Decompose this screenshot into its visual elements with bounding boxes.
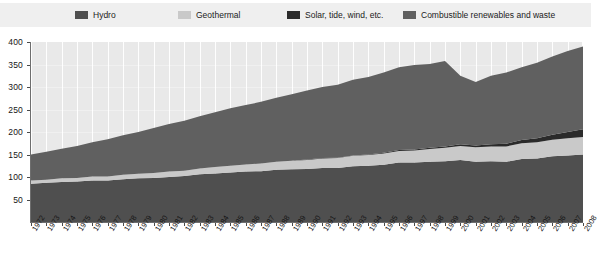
legend-label-0: Hydro xyxy=(93,11,116,20)
legend-item-3[interactable]: Combustible renewables and waste xyxy=(403,9,555,21)
legend-label-2: Solar, tide, wind, etc. xyxy=(305,11,383,20)
legend-label-1: Geothermal xyxy=(196,11,240,20)
legend-label-3: Combustible renewables and waste xyxy=(421,11,555,20)
legend-swatch-geothermal xyxy=(178,11,191,19)
y-tick-label-50: 50 xyxy=(13,195,23,205)
legend-item-0[interactable]: Hydro xyxy=(75,9,116,21)
y-tick-label-250: 250 xyxy=(8,105,23,115)
x-axis: 1972197319741975197619771978197919801981… xyxy=(31,223,583,260)
y-tick-label-150: 150 xyxy=(8,150,23,160)
legend-item-1[interactable]: Geothermal xyxy=(178,9,240,21)
y-tick-label-400: 400 xyxy=(8,37,23,47)
chart-legend: HydroGeothermalSolar, tide, wind, etc.Co… xyxy=(0,3,591,27)
legend-swatch-solar xyxy=(287,11,300,19)
legend-item-2[interactable]: Solar, tide, wind, etc. xyxy=(287,9,383,21)
y-tick-label-200: 200 xyxy=(8,127,23,137)
stacked-area-series xyxy=(31,42,583,222)
y-axis: 50100150200250300350400 xyxy=(0,42,31,222)
legend-swatch-combustible xyxy=(403,11,416,19)
y-tick-label-350: 350 xyxy=(8,60,23,70)
plot-area xyxy=(31,42,583,222)
legend-swatch-hydro xyxy=(75,11,88,19)
y-tick-label-100: 100 xyxy=(8,172,23,182)
x-tick-label-2008: 2008 xyxy=(582,214,599,233)
y-tick-label-300: 300 xyxy=(8,82,23,92)
